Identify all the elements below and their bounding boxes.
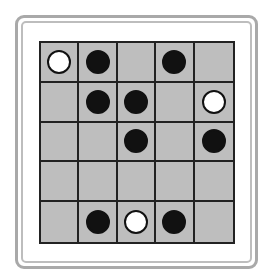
board-cell-r3-c4[interactable] [195, 162, 233, 202]
white-piece[interactable] [202, 90, 226, 114]
board-cell-r1-c3[interactable] [156, 83, 194, 123]
board-cell-r3-c1[interactable] [79, 162, 117, 202]
board-cell-r1-c1[interactable] [79, 83, 117, 123]
board-cell-r1-c0[interactable] [41, 83, 79, 123]
board-cell-r4-c4[interactable] [195, 202, 233, 242]
board-cell-r2-c1[interactable] [79, 123, 117, 163]
black-piece[interactable] [202, 129, 226, 153]
white-piece[interactable] [124, 210, 148, 234]
black-piece[interactable] [86, 50, 110, 74]
board-cell-r3-c0[interactable] [41, 162, 79, 202]
board-cell-r2-c3[interactable] [156, 123, 194, 163]
board-cell-r4-c1[interactable] [79, 202, 117, 242]
black-piece[interactable] [162, 50, 186, 74]
black-piece[interactable] [86, 210, 110, 234]
black-piece[interactable] [124, 129, 148, 153]
black-piece[interactable] [86, 90, 110, 114]
board-cell-r0-c0[interactable] [41, 43, 79, 83]
board-cell-r3-c2[interactable] [118, 162, 156, 202]
board-cell-r2-c0[interactable] [41, 123, 79, 163]
game-board [39, 41, 235, 244]
board-cell-r4-c2[interactable] [118, 202, 156, 242]
board-cell-r1-c4[interactable] [195, 83, 233, 123]
board-cell-r0-c2[interactable] [118, 43, 156, 83]
board-cell-r2-c4[interactable] [195, 123, 233, 163]
board-cell-r0-c3[interactable] [156, 43, 194, 83]
black-piece[interactable] [124, 90, 148, 114]
board-cell-r0-c1[interactable] [79, 43, 117, 83]
white-piece[interactable] [47, 50, 71, 74]
board-cell-r2-c2[interactable] [118, 123, 156, 163]
board-cell-r0-c4[interactable] [195, 43, 233, 83]
board-cell-r4-c3[interactable] [156, 202, 194, 242]
black-piece[interactable] [162, 210, 186, 234]
board-cell-r1-c2[interactable] [118, 83, 156, 123]
board-cell-r4-c0[interactable] [41, 202, 79, 242]
board-cell-r3-c3[interactable] [156, 162, 194, 202]
